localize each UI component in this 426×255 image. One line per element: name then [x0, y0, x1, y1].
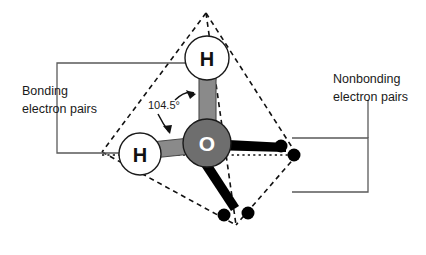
bond-angle-arrowhead-down	[163, 125, 172, 134]
electron-dot	[275, 140, 288, 153]
nonbonding-label-line-2: electron pairs	[333, 90, 408, 104]
water-molecule-tetrahedron-figure: H H O 104.5° Bonding	[0, 0, 426, 255]
atom-hydrogen-top: H	[185, 36, 229, 80]
hydrogen-top-symbol: H	[200, 48, 214, 70]
electron-dot	[218, 209, 231, 222]
electron-dot	[242, 207, 255, 220]
oxygen-symbol: O	[199, 132, 215, 155]
nonbonding-callout-label: Nonbonding electron pairs	[333, 72, 408, 104]
molecule-diagram-canvas: H H O 104.5° Bonding	[0, 0, 426, 255]
bonding-label-line-2: electron pairs	[22, 102, 97, 116]
bond-angle-label: 104.5°	[148, 99, 180, 111]
nonbonding-label-line-1: Nonbonding	[333, 72, 400, 86]
bond-angle-arrowhead-up	[186, 90, 196, 99]
bonding-callout-label: Bonding electron pairs	[22, 84, 97, 116]
nonbonding-callout-bracket	[292, 100, 368, 192]
bonding-label-line-1: Bonding	[22, 84, 68, 98]
electron-dot	[288, 149, 301, 162]
atom-hydrogen-left: H	[119, 133, 161, 175]
hydrogen-left-symbol: H	[133, 144, 147, 166]
atom-oxygen: O	[183, 119, 231, 167]
